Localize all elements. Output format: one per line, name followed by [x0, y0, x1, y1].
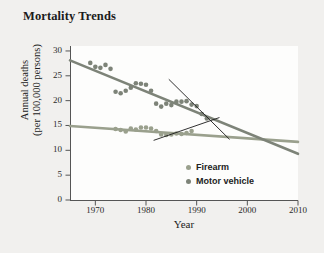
data-point-firearm — [189, 129, 194, 134]
data-point-firearm — [144, 125, 149, 130]
x-tick-label: 1970 — [78, 205, 112, 215]
x-axis-title: Year — [70, 218, 298, 230]
axis-lines — [70, 46, 298, 201]
data-point-firearm — [149, 126, 154, 131]
x-tick-label: 1990 — [180, 205, 214, 215]
data-points — [88, 61, 209, 138]
y-tick-label: 25 — [46, 70, 62, 80]
data-point-firearm — [129, 126, 134, 131]
data-point-motor-vehicle — [93, 65, 98, 70]
data-point-motor-vehicle — [169, 103, 174, 108]
data-point-motor-vehicle — [174, 99, 179, 104]
x-tick-label: 2010 — [281, 205, 315, 215]
y-axis-title: Annual deaths (per 100,000 persons) — [19, 30, 43, 150]
data-point-motor-vehicle — [139, 81, 144, 86]
y-tick-label: 10 — [46, 144, 62, 154]
legend-marker-motor-vehicle-icon — [186, 179, 191, 184]
data-point-motor-vehicle — [129, 85, 134, 90]
data-point-motor-vehicle — [88, 61, 93, 66]
data-point-motor-vehicle — [118, 91, 123, 96]
data-point-firearm — [118, 128, 123, 133]
trend-line-motor-vehicle — [70, 60, 298, 153]
data-point-motor-vehicle — [134, 81, 139, 86]
data-point-motor-vehicle — [113, 89, 118, 94]
data-point-motor-vehicle — [98, 66, 103, 71]
x-tick-label: 1980 — [129, 205, 163, 215]
mortality-trends-figure: Mortality Trends 051015202530 1970198019… — [0, 0, 324, 253]
legend-item-firearm: Firearm — [186, 160, 254, 174]
data-point-firearm — [113, 127, 118, 132]
data-point-firearm — [123, 129, 128, 134]
legend-marker-firearm-icon — [186, 165, 191, 170]
data-point-motor-vehicle — [103, 63, 108, 68]
y-tick-label: 5 — [46, 169, 62, 179]
y-tick-label: 15 — [46, 119, 62, 129]
chart-legend: Firearm Motor vehicle — [186, 160, 254, 188]
data-point-firearm — [139, 125, 144, 130]
data-point-motor-vehicle — [179, 99, 184, 104]
data-point-motor-vehicle — [159, 104, 164, 109]
data-point-motor-vehicle — [108, 67, 113, 72]
data-point-motor-vehicle — [149, 88, 154, 93]
data-point-motor-vehicle — [154, 101, 159, 106]
x-tick-label: 2000 — [230, 205, 264, 215]
trend-lines — [70, 60, 298, 153]
y-tick-label: 0 — [46, 194, 62, 204]
data-point-firearm — [184, 131, 189, 136]
data-point-firearm — [159, 132, 164, 137]
y-axis-title-line1: Annual deaths — [19, 30, 31, 150]
data-point-motor-vehicle — [144, 82, 149, 87]
y-axis-title-line2: (per 100,000 persons) — [31, 30, 43, 150]
data-point-motor-vehicle — [184, 99, 189, 104]
data-point-firearm — [154, 129, 159, 134]
data-point-motor-vehicle — [194, 104, 199, 109]
upper-arrow — [169, 79, 230, 139]
y-tick-label: 30 — [46, 45, 62, 55]
data-point-firearm — [179, 132, 184, 137]
y-tick-label: 20 — [46, 95, 62, 105]
data-point-motor-vehicle — [164, 101, 169, 106]
data-point-firearm — [134, 127, 139, 132]
data-point-motor-vehicle — [123, 88, 128, 93]
legend-label-firearm: Firearm — [196, 162, 229, 172]
legend-item-motor-vehicle: Motor vehicle — [186, 174, 254, 188]
legend-label-motor-vehicle: Motor vehicle — [196, 176, 254, 186]
